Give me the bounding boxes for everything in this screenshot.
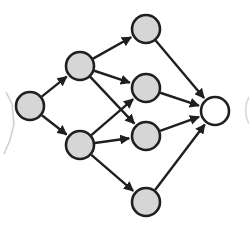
edge-A-to-B: [42, 77, 67, 97]
nodes-group: [16, 15, 229, 216]
edge-B-to-D: [93, 37, 131, 58]
node-H: [201, 97, 229, 125]
edge-G-to-H: [155, 125, 205, 191]
edge-D-to-H: [156, 40, 204, 98]
node-G: [132, 188, 160, 216]
edge-A-to-C: [42, 115, 67, 134]
edge-C-to-F: [95, 138, 129, 143]
ghost-right-bracket: [246, 97, 250, 124]
node-F: [132, 122, 160, 150]
node-D: [132, 15, 160, 43]
graph-svg: [0, 0, 249, 228]
edge-F-to-H: [160, 117, 199, 131]
edge-C-to-G: [91, 155, 133, 191]
edge-E-to-H: [160, 93, 199, 106]
network-diagram: [0, 0, 249, 228]
node-C: [66, 131, 94, 159]
edge-B-to-E: [94, 71, 130, 83]
node-A: [16, 92, 44, 120]
node-E: [132, 74, 160, 102]
node-B: [66, 52, 94, 80]
ghost-left-bracket: [4, 92, 14, 154]
